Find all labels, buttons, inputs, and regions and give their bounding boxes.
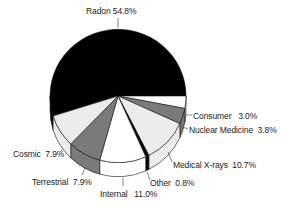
label-radon: Radon 54.8%	[86, 6, 136, 16]
label-consumer: Consumer 3.0%	[193, 111, 257, 121]
label-other: Other 0.8%	[150, 178, 194, 188]
label-terrestrial: Terrestrial 7.9%	[32, 177, 92, 187]
label-nuclear-medicine: Nuclear Medicine 3.8%	[189, 125, 277, 135]
pie-side-other	[146, 155, 149, 170]
pie-chart	[0, 0, 287, 207]
label-cosmic: Cosmic 7.9%	[13, 149, 64, 159]
label-internal: Internal 11.0%	[100, 189, 157, 199]
label-medical-xrays: Medical X-rays 10.7%	[173, 160, 256, 170]
